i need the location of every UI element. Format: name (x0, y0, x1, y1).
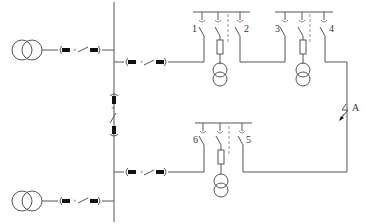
fuse-switch-t3 (216, 123, 224, 174)
fuse-switch-t1 (215, 12, 223, 64)
feeder-breaker-bottom: × (114, 168, 202, 176)
cable-4-5 (247, 62, 347, 172)
fuse-switch-t2 (298, 12, 306, 64)
svg-text:×: × (140, 59, 143, 65)
svg-text:×: × (140, 169, 143, 175)
load-switch-2: 2 (235, 12, 249, 62)
ring-main-unit-1: 1 2 (192, 12, 250, 86)
svg-text:6: 6 (193, 134, 198, 145)
source-transformer-top (12, 40, 42, 60)
feeder-breaker-top: × (114, 58, 202, 66)
load-switch-4: 4 (320, 12, 334, 62)
svg-text:×: × (111, 105, 114, 111)
source-transformer-bottom (12, 191, 42, 211)
svg-text:3: 3 (275, 23, 280, 34)
distribution-transformer-1 (213, 63, 227, 86)
svg-text:×: × (73, 47, 76, 53)
svg-text:2: 2 (244, 23, 249, 34)
svg-text:×: × (73, 198, 76, 204)
load-switch-3: 3 (275, 12, 288, 62)
incoming-breaker-top: × (42, 46, 114, 54)
ring-main-unit-3: 6 5 (193, 123, 252, 197)
single-line-diagram: × × × × (0, 0, 366, 224)
ring-main-unit-2: 3 4 (275, 12, 334, 86)
load-switch-6: 6 (193, 123, 206, 172)
svg-text:4: 4 (329, 23, 334, 34)
distribution-transformer-3 (214, 174, 228, 197)
incoming-breaker-bottom: × (42, 197, 114, 205)
svg-text:5: 5 (246, 134, 251, 145)
svg-text:A: A (352, 102, 360, 113)
load-switch-5: 5 (238, 123, 251, 172)
fault-point-a: A (339, 102, 360, 121)
load-switch-1: 1 (192, 12, 205, 62)
distribution-transformer-2 (296, 63, 310, 86)
svg-text:1: 1 (192, 23, 197, 34)
